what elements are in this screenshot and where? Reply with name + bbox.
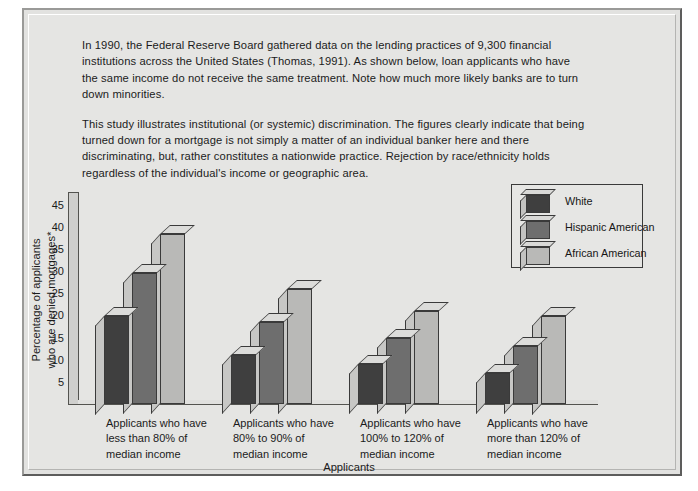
x-category-label: Applicants who have80% to 90% ofmedian i… [233, 416, 363, 462]
bar [104, 316, 129, 405]
x-category-line: median income [106, 447, 236, 462]
y-tick-label: 35 [40, 243, 64, 255]
x-category-line: Applicants who have [360, 416, 490, 431]
x-category-line: more than 120% of [487, 431, 617, 446]
plot-area: 45403530252015105 [78, 196, 598, 404]
y-tick-label: 30 [40, 265, 64, 277]
x-category-line: median income [233, 447, 363, 462]
bar [287, 289, 312, 404]
y-tick-label: 15 [40, 332, 64, 344]
axis-wall [68, 192, 78, 404]
y-axis-ticks: 45403530252015105 [30, 196, 64, 404]
figure-root: In 1990, the Federal Reserve Board gathe… [0, 0, 698, 491]
x-category-label: Applicants who haveless than 80% ofmedia… [106, 416, 236, 462]
x-category-line: Applicants who have [487, 416, 617, 431]
bar [541, 316, 566, 405]
bar [414, 311, 439, 404]
y-tick-label: 45 [40, 199, 64, 211]
y-axis-line [78, 192, 79, 404]
x-category-line: less than 80% of [106, 431, 236, 446]
y-tick-label: 20 [40, 309, 64, 321]
x-category-label: Applicants who have100% to 120% ofmedian… [360, 416, 490, 462]
bar [160, 234, 185, 404]
y-tick-label: 5 [40, 376, 64, 388]
x-category-line: Applicants who have [233, 416, 363, 431]
y-tick-label: 40 [40, 221, 64, 233]
x-category-line: 80% to 90% of [233, 431, 363, 446]
caption-block: In 1990, the Federal Reserve Board gathe… [82, 37, 587, 181]
bar [259, 322, 284, 404]
y-tick-label: 25 [40, 287, 64, 299]
x-category-label: Applicants who havemore than 120% ofmedi… [487, 416, 617, 462]
x-category-line: 100% to 120% of [360, 431, 490, 446]
bar [231, 355, 256, 404]
y-tick-label: 10 [40, 354, 64, 366]
x-category-line: Applicants who have [106, 416, 236, 431]
caption-paragraph-2: This study illustrates institutional (or… [82, 116, 587, 182]
x-axis-line [68, 404, 598, 405]
bar-group [485, 196, 595, 404]
bar-group [104, 196, 214, 404]
x-category-line: median income [487, 447, 617, 462]
x-category-line: median income [360, 447, 490, 462]
x-axis-label: Applicants [0, 461, 698, 473]
bar-group [358, 196, 468, 404]
caption-paragraph-1: In 1990, the Federal Reserve Board gathe… [82, 37, 587, 103]
bar [386, 338, 411, 404]
bar [358, 364, 383, 404]
bar-group [231, 196, 341, 404]
bar [132, 273, 157, 404]
bar [513, 346, 538, 404]
bar [485, 373, 510, 404]
